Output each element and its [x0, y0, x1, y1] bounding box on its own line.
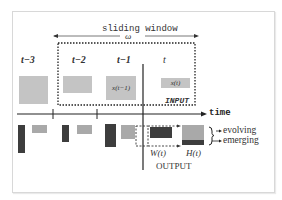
w-t-label: W(t): [150, 148, 166, 158]
time-step-t-2: t−2: [72, 54, 86, 65]
input-block-t: x(t): [161, 78, 190, 88]
time-step-t-3: t−3: [21, 54, 35, 65]
input-block-t-2: [63, 76, 92, 93]
output-h-t-emerging: [182, 140, 204, 145]
h-t-label: H(t): [186, 148, 201, 158]
time-step-t: t: [163, 54, 166, 65]
window-size-symbol: ω: [125, 31, 131, 41]
input-block-t-3: [19, 76, 48, 104]
output-w-t-2: [62, 125, 69, 142]
output-w-t-1: [105, 124, 116, 147]
time-step-t-1: t−1: [117, 54, 131, 65]
legend-evolving: evolving: [223, 125, 256, 135]
output-h-t-evolving: [182, 125, 204, 140]
output-w-t-3: [18, 125, 25, 153]
input-label: INPUT: [165, 96, 189, 105]
input-block-t-1: x(t−1): [106, 76, 136, 100]
sliding-window-label: sliding window: [102, 24, 178, 34]
output-h-t-3: [32, 125, 47, 133]
output-w-t: [150, 127, 172, 138]
legend-emerging: emerging: [223, 135, 259, 145]
output-h-t-2: [77, 125, 92, 134]
output-label: OUTPUT: [156, 161, 192, 171]
output-h-t-1: [121, 125, 135, 139]
time-axis-label: time: [209, 108, 231, 118]
